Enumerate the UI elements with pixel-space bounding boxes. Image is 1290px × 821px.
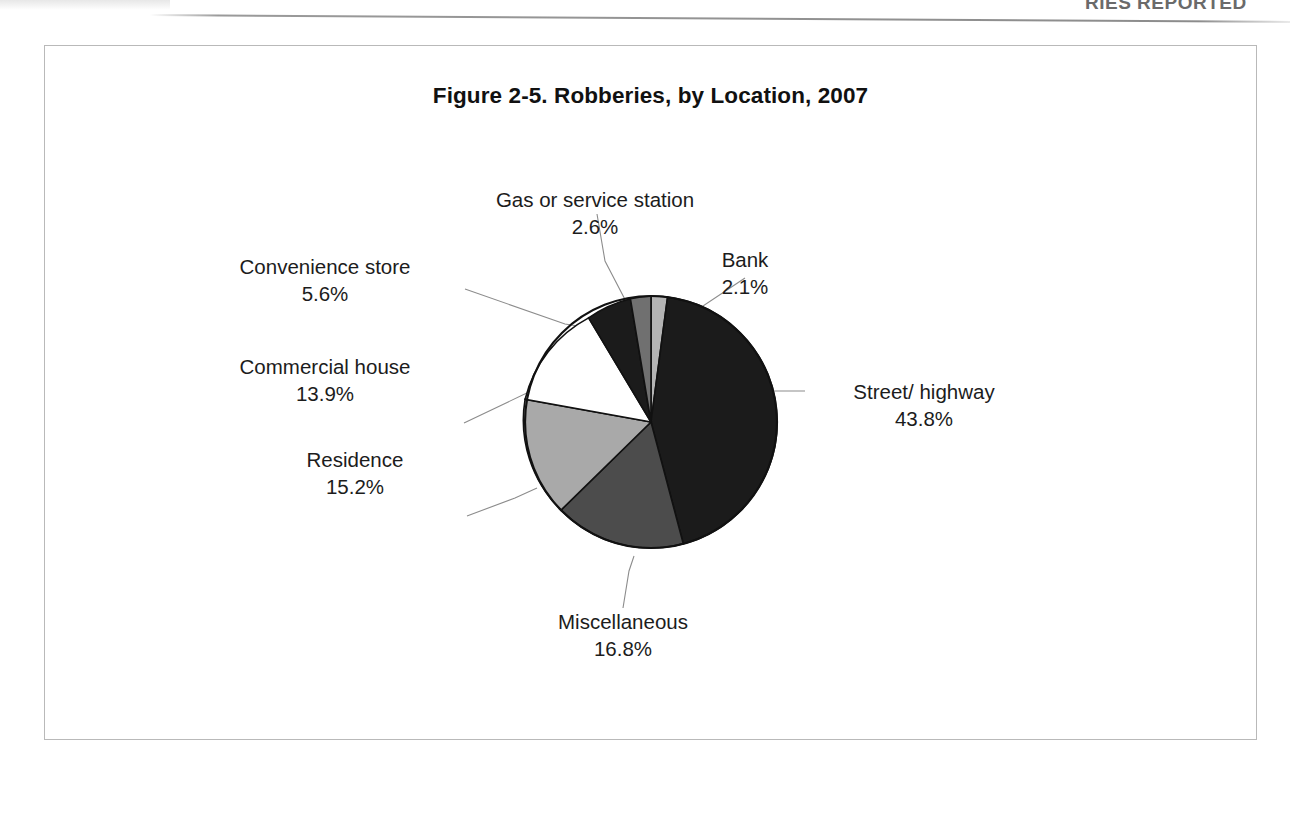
slice-label-commercial-house-value: 13.9% <box>185 380 465 407</box>
slice-label-street-highway: Street/ highway 43.8% <box>809 378 1039 432</box>
slice-label-gas-station-value: 2.6% <box>345 213 845 240</box>
slice-label-miscellaneous: Miscellaneous 16.8% <box>503 608 743 662</box>
slice-label-commercial-house-name: Commercial house <box>185 353 465 380</box>
slice-label-residence: Residence 15.2% <box>245 446 465 500</box>
slice-label-miscellaneous-name: Miscellaneous <box>503 608 743 635</box>
leader-line-miscellaneous <box>623 556 634 608</box>
slice-label-residence-value: 15.2% <box>245 473 465 500</box>
slice-label-gas-station-name: Gas or service station <box>345 186 845 213</box>
figure-frame: Figure 2-5. Robberies, by Location, 2007 <box>44 45 1257 740</box>
pie-chart: Gas or service station 2.6% Bank 2.1% Co… <box>45 46 1258 741</box>
slice-label-residence-name: Residence <box>245 446 465 473</box>
slice-label-bank: Bank 2.1% <box>645 246 845 300</box>
slice-label-convenience-store-value: 5.6% <box>185 280 465 307</box>
slice-label-gas-station: Gas or service station 2.6% <box>345 186 845 240</box>
slice-label-bank-name: Bank <box>645 246 845 273</box>
leader-line-residence <box>467 488 537 516</box>
slice-label-street-highway-value: 43.8% <box>809 405 1039 432</box>
page-header-text-fragment: RIES REPORTED <box>1085 0 1247 14</box>
slice-label-commercial-house: Commercial house 13.9% <box>185 353 465 407</box>
scan-edge-artifact-top-left <box>0 0 170 10</box>
slice-label-bank-value: 2.1% <box>645 273 845 300</box>
slice-label-street-highway-name: Street/ highway <box>809 378 1039 405</box>
leader-line-convenience <box>465 289 597 329</box>
slice-label-convenience-store: Convenience store 5.6% <box>185 253 465 307</box>
slice-label-miscellaneous-value: 16.8% <box>503 635 743 662</box>
slice-label-convenience-store-name: Convenience store <box>185 253 465 280</box>
scan-line-top <box>150 14 1290 23</box>
